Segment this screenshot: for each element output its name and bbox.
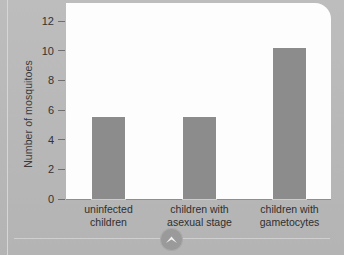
y-tick-mark [58,80,65,81]
y-tick-mark [58,50,65,51]
category-label-line: children with [236,203,344,216]
y-tick: 6 [0,104,66,116]
y-tick: 2 [0,163,66,175]
y-tick-label: 10 [42,45,54,57]
x-axis-category-label: children withgametocytes [236,203,344,228]
y-tick-mark [58,169,65,170]
y-tick-label: 12 [42,15,54,27]
y-tick-mark [58,110,65,111]
bar [273,48,306,199]
bar-chart-figure: Number of mosquitoes 024681012 uninfecte… [0,0,344,212]
y-tick-label: 8 [48,74,54,86]
y-tick: 8 [0,74,66,86]
y-tick-mark [58,21,65,22]
y-tick-mark [58,139,65,140]
y-tick: 12 [0,15,66,27]
y-tick-mark [58,199,65,200]
category-label-line: gametocytes [236,216,344,229]
y-tick: 10 [0,45,66,57]
scroll-up-button[interactable] [161,229,182,250]
x-axis-line [66,199,331,200]
y-tick-label: 4 [48,134,54,146]
bar [183,117,216,199]
page-background: Number of mosquitoes 024681012 uninfecte… [0,0,344,255]
y-tick-label: 0 [48,193,54,205]
chevron-up-icon [165,235,178,244]
y-tick: 4 [0,134,66,146]
y-tick-label: 6 [48,104,54,116]
bar [92,117,125,199]
y-tick-label: 2 [48,163,54,175]
